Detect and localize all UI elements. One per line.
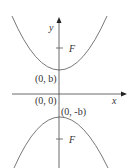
x-axis-label: x — [111, 95, 117, 106]
lower-focus-label: F — [68, 134, 76, 145]
diagram-canvas: y x F F (0, b) (0, 0) (0, -b) — [0, 0, 131, 168]
upper-focus-label: F — [68, 43, 76, 54]
origin-label: (0, 0) — [35, 95, 57, 107]
lower-parabola — [14, 117, 108, 168]
upper-parabola — [12, 16, 107, 70]
y-axis-label: y — [48, 22, 54, 33]
y-axis-arrow-icon — [57, 17, 62, 23]
x-axis-arrow-icon — [121, 92, 127, 97]
upper-vertex-label: (0, b) — [35, 73, 57, 85]
lower-vertex-label: (0, -b) — [61, 106, 86, 118]
